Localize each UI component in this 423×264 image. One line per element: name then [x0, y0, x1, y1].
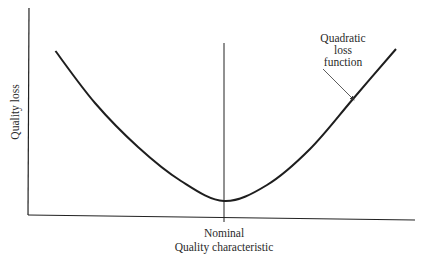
annotation-line-2: loss [334, 44, 352, 56]
annotation-arrow [323, 69, 354, 100]
y-axis-label: Quality loss [9, 84, 22, 140]
x-axis-label: Quality characteristic [175, 241, 274, 254]
quality-loss-diagram: Quality loss Nominal Quality characteris… [0, 0, 423, 264]
quadratic-loss-curve [55, 49, 396, 201]
x-tick-label-nominal: Nominal [204, 227, 244, 239]
x-axis [28, 215, 415, 220]
annotation-line-3: function [324, 56, 363, 68]
annotation-line-1: Quadratic [320, 32, 365, 44]
y-axis [28, 8, 29, 215]
